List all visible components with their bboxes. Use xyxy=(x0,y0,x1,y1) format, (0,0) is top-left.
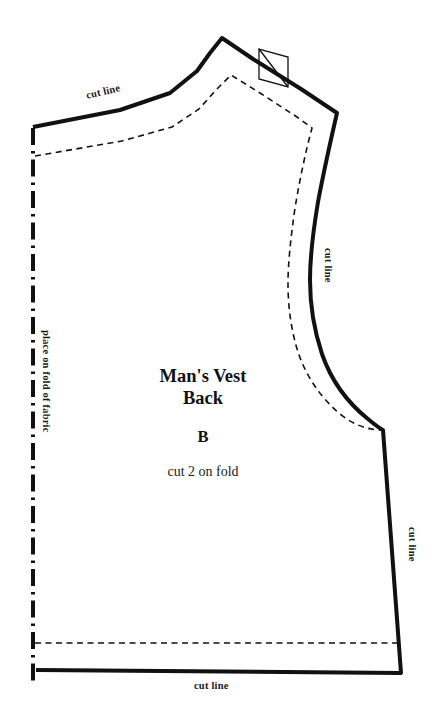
cut-line-solid xyxy=(33,38,401,673)
place-on-fold-label: place on fold of fabric xyxy=(40,330,52,433)
cut-line-label-armhole: cut line xyxy=(322,248,334,283)
piece-title-line-2: Back xyxy=(92,388,314,410)
cut-line-label-side-seam: cut line xyxy=(406,527,418,562)
cut-line-label-hem: cut line xyxy=(194,680,229,692)
piece-title-block: Man's Vest Back B cut 2 on fold xyxy=(92,366,314,480)
pattern-drawing xyxy=(0,0,441,721)
piece-letter: B xyxy=(92,427,314,447)
shoulder-notch-bowtie xyxy=(259,49,288,87)
piece-title: Man's Vest Back xyxy=(92,366,314,409)
pattern-sheet: Man's Vest Back B cut 2 on fold cut line… xyxy=(0,0,441,721)
piece-title-line-1: Man's Vest xyxy=(92,366,314,388)
piece-cut-instruction: cut 2 on fold xyxy=(92,464,314,480)
